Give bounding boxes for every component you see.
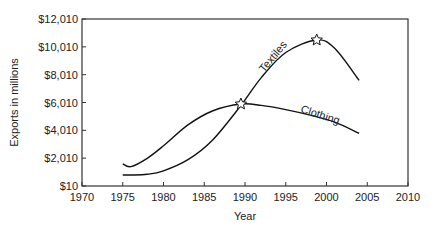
y-tick-label: $10 (60, 180, 78, 192)
label-textiles: Textiles (256, 38, 289, 74)
x-axis-label: Year (234, 210, 257, 222)
label-clothing: Clothing (299, 102, 341, 126)
y-axis-label: Exports in millions (8, 58, 20, 147)
series-textiles (123, 40, 359, 175)
x-tick-label: 2000 (314, 191, 338, 203)
x-tick-label: 2010 (396, 191, 420, 203)
y-tick-label: $10,010 (38, 41, 78, 53)
x-tick-label: 1995 (274, 191, 298, 203)
y-tick-label: $4,010 (44, 124, 78, 136)
y-tick-label: $12,010 (38, 13, 78, 25)
x-tick-label: 1990 (233, 191, 257, 203)
x-tick-label: 1975 (111, 191, 135, 203)
line-chart: 197019751980198519901995200020052010$10$… (0, 0, 436, 231)
x-tick-label: 1970 (70, 191, 94, 203)
y-tick-label: $6,010 (44, 97, 78, 109)
star-marker (311, 34, 322, 45)
y-tick-label: $8,010 (44, 69, 78, 81)
x-tick-label: 2005 (355, 191, 379, 203)
x-tick-label: 1980 (151, 191, 175, 203)
y-tick-label: $2,010 (44, 152, 78, 164)
x-tick-label: 1985 (192, 191, 216, 203)
